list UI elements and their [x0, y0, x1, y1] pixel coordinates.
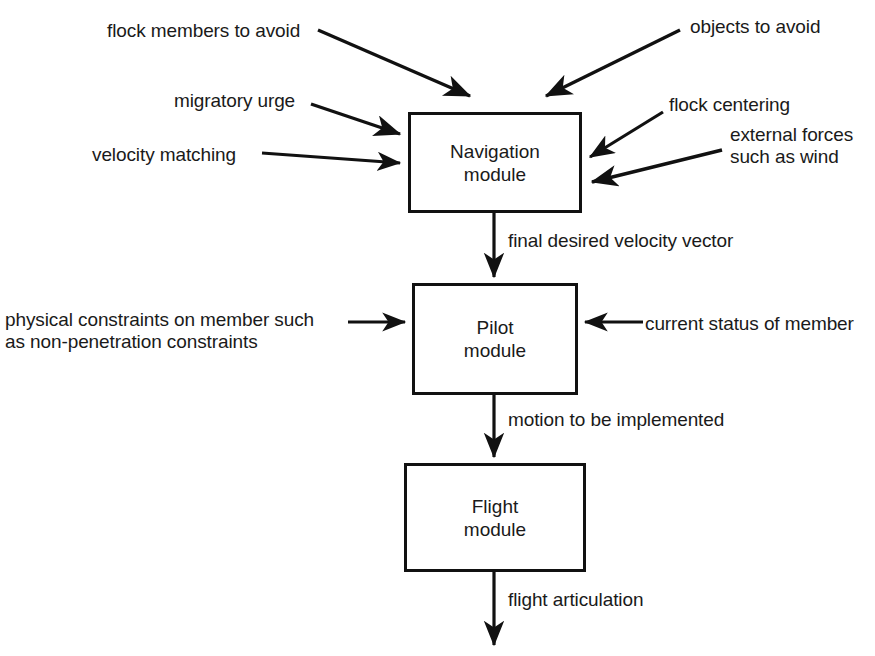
label-physical-constraints-line2: as non-penetration constraints [5, 331, 258, 353]
navigation-module-label-line2: module [464, 163, 526, 186]
flight-module-box[interactable]: Flight module [404, 463, 586, 572]
connector-velocity-matching [262, 153, 400, 163]
connector-migratory-urge [311, 104, 400, 134]
label-velocity-matching: velocity matching [92, 144, 236, 166]
label-flight-articulation: flight articulation [508, 589, 643, 611]
navigation-module-box[interactable]: Navigation module [408, 112, 582, 213]
label-flock-centering: flock centering [669, 94, 790, 116]
label-physical-constraints-line1: physical constraints on member such [5, 309, 314, 331]
pilot-module-label-line2: module [464, 339, 526, 362]
connector-flock-centering [590, 112, 663, 157]
label-final-desired-velocity-vector: final desired velocity vector [508, 230, 733, 252]
navigation-module-label-line1: Navigation [450, 140, 540, 163]
pilot-module-label-line1: Pilot [477, 316, 514, 339]
label-external-forces-line1: external forces [730, 124, 853, 146]
label-migratory-urge: migratory urge [174, 90, 295, 112]
label-external-forces-line2: such as wind [730, 146, 839, 168]
label-current-status-of-member: current status of member [645, 313, 854, 335]
flowchart-diagram: Navigation module Pilot module Flight mo… [0, 0, 875, 656]
pilot-module-box[interactable]: Pilot module [412, 283, 578, 395]
connector-objects-to-avoid [546, 30, 680, 96]
label-objects-to-avoid: objects to avoid [690, 16, 820, 38]
connector-flock-members-to-avoid [318, 30, 470, 96]
flight-module-label-line2: module [464, 518, 526, 541]
connector-external-forces [592, 150, 722, 182]
label-motion-to-be-implemented: motion to be implemented [508, 409, 724, 431]
label-flock-members-to-avoid: flock members to avoid [107, 20, 300, 42]
flight-module-label-line1: Flight [472, 495, 518, 518]
